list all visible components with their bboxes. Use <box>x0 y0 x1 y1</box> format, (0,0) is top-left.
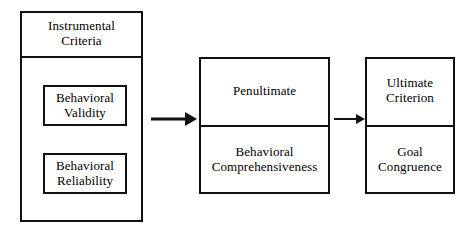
instrumental-criteria-header-line2: Criteria <box>48 34 115 49</box>
behavioral-reliability-label: Behavioral Reliability <box>43 153 127 194</box>
ultimate-criterion-label: Ultimate Criterion <box>365 57 455 125</box>
behavioral-comprehensiveness-line1: Behavioral <box>212 145 318 160</box>
instrumental-criteria-header-divider <box>20 56 143 58</box>
arrow-left-to-middle-icon <box>151 111 197 127</box>
penultimate-line1: Penultimate <box>233 84 296 99</box>
arrow-shaft <box>151 118 189 121</box>
goal-congruence-line1: Goal <box>378 145 442 160</box>
ultimate-criterion-line1: Ultimate <box>386 76 434 91</box>
goal-congruence-line2: Congruence <box>378 160 442 175</box>
arrow-head <box>356 114 365 124</box>
behavioral-comprehensiveness-label: Behavioral Comprehensiveness <box>199 125 330 194</box>
ultimate-criterion-line2: Criterion <box>386 91 434 106</box>
behavioral-reliability-line2: Reliability <box>56 174 114 189</box>
instrumental-criteria-header-label: Instrumental Criteria <box>20 11 143 56</box>
arrow-head <box>185 112 197 126</box>
behavioral-validity-label: Behavioral Validity <box>43 85 127 126</box>
arrow-middle-to-right-icon <box>334 112 365 126</box>
instrumental-criteria-header-line1: Instrumental <box>48 19 115 34</box>
penultimate-label: Penultimate <box>199 57 330 125</box>
behavioral-validity-line1: Behavioral <box>56 91 114 106</box>
behavioral-comprehensiveness-line2: Comprehensiveness <box>212 160 318 175</box>
behavioral-validity-line2: Validity <box>56 106 114 121</box>
diagram-canvas: Instrumental Criteria Behavioral Validit… <box>0 0 472 241</box>
goal-congruence-label: Goal Congruence <box>365 125 455 194</box>
behavioral-reliability-line1: Behavioral <box>56 159 114 174</box>
